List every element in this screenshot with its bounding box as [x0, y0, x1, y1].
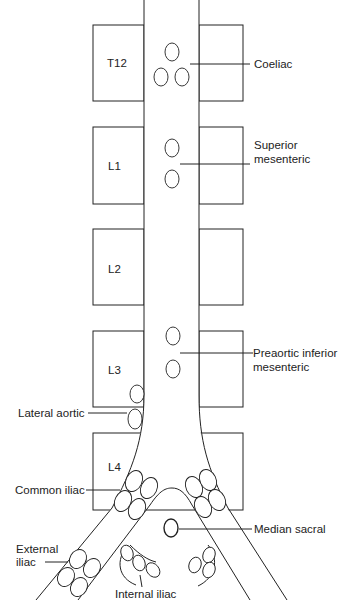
vertebra-label-l3: L3 — [108, 364, 121, 376]
median-sacral-node — [164, 519, 178, 537]
label-preaortic-inferior-2: mesenteric — [253, 361, 309, 373]
vertebra-label-l4: L4 — [108, 461, 121, 473]
label-coeliac: Coeliac — [254, 58, 293, 70]
label-external-iliac-2: iliac — [16, 556, 36, 568]
internal-iliac-nodes — [119, 543, 218, 586]
label-lateral-aortic: Lateral aortic — [18, 407, 85, 419]
label-superior-mesenteric-1: Superior — [254, 139, 298, 151]
label-median-sacral: Median sacral — [254, 523, 326, 535]
label-common-iliac: Common iliac — [15, 484, 85, 496]
vertebra-label-t12: T12 — [107, 57, 127, 69]
vertebra-label-l2: L2 — [108, 263, 121, 275]
label-superior-mesenteric-2: mesenteric — [254, 153, 310, 165]
label-external-iliac-1: External — [16, 543, 58, 555]
label-internal-iliac: Internal iliac — [115, 588, 177, 600]
vertebra-label-l1: L1 — [108, 160, 121, 172]
lymph-node-diagram: T12 L1 L2 L3 L4 — [0, 0, 354, 612]
label-preaortic-inferior-1: Preaortic inferior — [253, 347, 338, 359]
